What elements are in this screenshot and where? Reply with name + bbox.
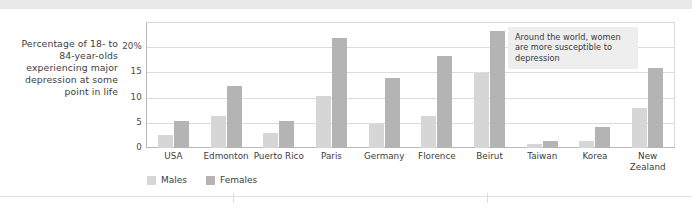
bar-females-beirut[interactable]	[490, 31, 505, 149]
x-tick-label-new-zealand: New Zealand	[621, 151, 674, 172]
annotation-callout: Around the world, women are more suscept…	[508, 27, 638, 69]
bar-group	[411, 23, 464, 148]
bar-males-edmonton[interactable]	[211, 116, 226, 149]
top-band	[0, 0, 692, 9]
y-tick-label-15: 15	[108, 66, 142, 76]
x-tick-label-korea: Korea	[569, 151, 622, 172]
y-tick-label-20: 20%	[108, 41, 142, 51]
bar-males-puerto-rico[interactable]	[263, 133, 278, 148]
legend-swatch-males-icon	[147, 176, 156, 185]
y-axis-caption: Percentage of 18- to 84-year-olds experi…	[10, 38, 118, 98]
x-axis-tick-labels: USAEdmontonPuerto RicoParisGermanyFloren…	[147, 151, 674, 172]
y-tick-label-0: 0	[108, 142, 142, 152]
bar-males-new-zealand[interactable]	[632, 108, 647, 148]
y-tick-label-10: 10	[108, 92, 142, 102]
bar-group	[358, 23, 411, 148]
bar-group	[305, 23, 358, 148]
y-axis-tick-labels: 05101520%	[104, 22, 142, 148]
bottom-tick-right	[487, 193, 488, 203]
bar-males-germany[interactable]	[369, 124, 384, 148]
legend: Males Females	[147, 175, 269, 185]
bar-females-florence[interactable]	[437, 56, 452, 149]
bar-group	[252, 23, 305, 148]
legend-label-females: Females	[220, 175, 257, 185]
bar-males-korea[interactable]	[579, 141, 594, 149]
legend-item-males[interactable]: Males	[147, 175, 187, 185]
bar-males-usa[interactable]	[158, 135, 173, 149]
bottom-tick-left	[233, 193, 234, 203]
bar-group	[200, 23, 253, 148]
bar-females-edmonton[interactable]	[227, 86, 242, 149]
x-tick-label-edmonton: Edmonton	[200, 151, 253, 172]
bar-females-korea[interactable]	[595, 127, 610, 149]
legend-swatch-females-icon	[206, 176, 215, 185]
bar-females-germany[interactable]	[385, 78, 400, 148]
x-tick-label-florence: Florence	[411, 151, 464, 172]
bottom-divider	[0, 196, 692, 197]
bar-males-paris[interactable]	[316, 96, 331, 149]
x-tick-label-usa: USA	[147, 151, 200, 172]
bar-group	[147, 23, 200, 148]
bar-females-taiwan[interactable]	[543, 141, 558, 149]
chart-page: Percentage of 18- to 84-year-olds experi…	[0, 0, 692, 210]
legend-item-females[interactable]: Females	[206, 175, 257, 185]
x-tick-label-paris: Paris	[305, 151, 358, 172]
bar-females-puerto-rico[interactable]	[279, 121, 294, 149]
x-tick-label-taiwan: Taiwan	[516, 151, 569, 172]
bar-males-beirut[interactable]	[474, 73, 489, 148]
bar-males-taiwan[interactable]	[527, 144, 542, 148]
x-tick-label-puerto-rico: Puerto Rico	[252, 151, 305, 172]
y-tick-label-5: 5	[108, 117, 142, 127]
x-tick-label-beirut: Beirut	[463, 151, 516, 172]
bar-females-usa[interactable]	[174, 121, 189, 149]
bar-females-new-zealand[interactable]	[648, 68, 663, 148]
bar-females-paris[interactable]	[332, 38, 347, 148]
legend-label-males: Males	[161, 175, 187, 185]
bar-males-florence[interactable]	[421, 116, 436, 149]
x-tick-label-germany: Germany	[358, 151, 411, 172]
